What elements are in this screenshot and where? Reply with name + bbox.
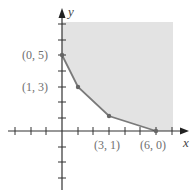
x-axis-label: x [182,135,189,150]
vertex-label-6-0: (6, 0) [140,138,166,152]
vertex-label-0-5: (0, 5) [22,48,48,62]
vertex-point-1-3 [76,85,80,89]
y-axis-label: y [66,4,74,19]
vertex-label-3-1: (3, 1) [94,138,120,152]
y-axis-arrow-icon [59,8,66,18]
feasible-region [62,22,173,131]
vertex-label-1-3: (1, 3) [22,80,48,94]
vertex-point-3-1 [107,114,111,118]
vertex-point-0-5 [60,53,64,57]
x-axis-arrow-icon [180,128,189,135]
graph-canvas: y x (0, 5) (1, 3) (3, 1) (6, 0) [0,0,193,193]
vertex-point-6-0 [154,129,158,133]
